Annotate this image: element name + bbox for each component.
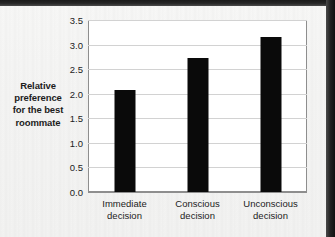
y-axis-title-line-3: for the best xyxy=(2,104,74,116)
y-axis-tick-label: 0.5 xyxy=(70,162,83,173)
x-axis-tick-label: Immediatedecision xyxy=(102,198,146,221)
y-axis-tick-label: 1.5 xyxy=(70,113,83,124)
x-axis-tick-label-line: Unconscious xyxy=(243,198,297,210)
x-axis-tick-label: Consciousdecision xyxy=(175,198,219,221)
y-axis-tick-label: 0.0 xyxy=(70,187,83,198)
bar xyxy=(114,90,135,192)
y-axis-tick-label: 2.0 xyxy=(70,88,83,99)
bar xyxy=(260,37,281,192)
gridline xyxy=(88,192,307,193)
y-axis-title-line-2: preference xyxy=(2,92,74,104)
x-axis-tick-label-line: decision xyxy=(243,210,297,222)
x-axis-tick-label-line: Immediate xyxy=(102,198,146,210)
x-axis-tick-label-line: Conscious xyxy=(175,198,219,210)
y-axis-tick-label: 1.0 xyxy=(70,137,83,148)
scan-edge-top xyxy=(0,0,335,6)
x-axis-tick-label-line: decision xyxy=(102,210,146,222)
y-axis-title: Relative preference for the best roommat… xyxy=(2,80,74,129)
bar-chart: 0.00.51.01.52.02.53.03.5 Immediatedecisi… xyxy=(88,20,307,192)
x-axis-tick-label: Unconsciousdecision xyxy=(243,198,297,221)
y-axis-title-line-4: roommate xyxy=(2,117,74,129)
y-axis-tick-label: 2.5 xyxy=(70,64,83,75)
bar xyxy=(187,58,208,192)
gridline xyxy=(88,20,307,21)
x-axis-tick-label-line: decision xyxy=(175,210,219,222)
y-axis-tick-label: 3.0 xyxy=(70,39,83,50)
y-axis-tick-label: 3.5 xyxy=(70,15,83,26)
y-axis-title-line-1: Relative xyxy=(2,80,74,92)
scan-edge-right xyxy=(326,0,335,237)
